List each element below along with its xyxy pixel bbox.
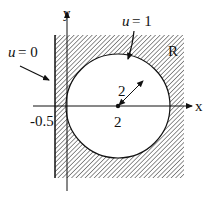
u0-eq: = 0 xyxy=(18,44,38,60)
region-label: R xyxy=(168,43,178,59)
x-axis-label: x xyxy=(195,98,203,114)
center-label: 2 xyxy=(114,114,122,130)
y-axis-label: y xyxy=(63,5,71,21)
wall-x-label: -0.5 xyxy=(30,113,54,129)
u1-var: u xyxy=(122,13,130,29)
u0-var: u xyxy=(8,44,16,60)
diagram-svg: y x u = 0 u = 1 -0.5 2 2 R xyxy=(0,0,209,211)
radius-label: 2 xyxy=(118,83,126,99)
diagram: y x u = 0 u = 1 -0.5 2 2 R xyxy=(0,0,209,211)
u1-eq: = 1 xyxy=(132,13,152,29)
u0-pointer-arrow xyxy=(20,66,49,80)
